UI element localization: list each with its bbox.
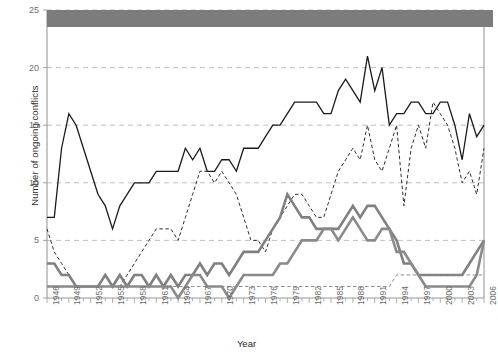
- y-tick-label: 5: [13, 235, 39, 245]
- x-tick-label: 1970: [225, 286, 235, 305]
- series-line-series-black-dashed: [47, 102, 484, 286]
- x-tick-label: 2006: [488, 286, 498, 305]
- x-tick-label: 1988: [356, 286, 366, 305]
- y-tick-label: 25: [13, 5, 39, 15]
- x-tick-label: 1979: [291, 286, 301, 305]
- y-axis-title: Number of ongoing conflicts: [29, 46, 40, 246]
- x-tick-label: 1961: [160, 286, 170, 305]
- x-tick-label: 1973: [247, 286, 257, 305]
- x-tick-label: 1964: [182, 286, 192, 305]
- x-tick-label: 1985: [335, 286, 345, 305]
- y-tick-label: 15: [13, 120, 39, 130]
- obscured-legend-band: [47, 10, 493, 27]
- series-line-series-black-solid: [47, 56, 484, 229]
- x-tick-label: 2003: [466, 286, 476, 305]
- x-tick-label: 1958: [138, 286, 148, 305]
- x-tick-label: 1967: [203, 286, 213, 305]
- x-tick-label: 1994: [400, 286, 410, 305]
- x-tick-label: 1952: [94, 286, 104, 305]
- x-tick-label: 1982: [313, 286, 323, 305]
- x-tick-label: 1991: [378, 286, 388, 305]
- y-tick-label: 10: [13, 178, 39, 188]
- y-tick-label: 20: [13, 63, 39, 73]
- x-tick-label: 2000: [444, 286, 454, 305]
- x-tick-label: 1946: [51, 286, 61, 305]
- x-tick-label: 1949: [72, 286, 82, 305]
- x-tick-label: 1997: [422, 286, 432, 305]
- x-tick-label: 1976: [269, 286, 279, 305]
- x-axis-title: Year: [0, 338, 493, 349]
- x-tick-label: 1955: [116, 286, 126, 305]
- y-tick-label: 0: [13, 293, 39, 303]
